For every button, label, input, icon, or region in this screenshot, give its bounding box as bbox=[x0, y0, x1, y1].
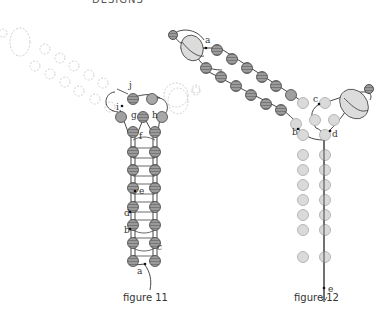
ladder-beads bbox=[128, 127, 161, 267]
label-a: a bbox=[137, 266, 143, 276]
figure-11-caption: figure 11 bbox=[123, 292, 168, 303]
figure-12-diagram: a b c d e bbox=[164, 30, 374, 302]
label-g: g bbox=[131, 110, 137, 120]
label-j: j bbox=[128, 80, 132, 90]
label-h: h bbox=[152, 110, 158, 120]
label-a: a bbox=[205, 35, 211, 45]
label-f: f bbox=[139, 131, 143, 141]
label-d: d bbox=[124, 208, 130, 218]
label-i: i bbox=[116, 102, 119, 112]
figure-12-caption: figure 12 bbox=[294, 292, 339, 303]
figure-11-diagram: j i g h f e d b c a bbox=[0, 28, 200, 290]
label-b: b bbox=[124, 225, 130, 235]
light-beads bbox=[291, 98, 340, 263]
beading-diagram: j i g h f e d b c a bbox=[0, 0, 389, 309]
label-d: d bbox=[332, 129, 338, 139]
label-c: c bbox=[313, 94, 318, 104]
label-b: b bbox=[292, 127, 298, 137]
label-e: e bbox=[139, 186, 144, 196]
ghost-beads bbox=[0, 28, 200, 114]
label-c: c bbox=[157, 242, 162, 252]
